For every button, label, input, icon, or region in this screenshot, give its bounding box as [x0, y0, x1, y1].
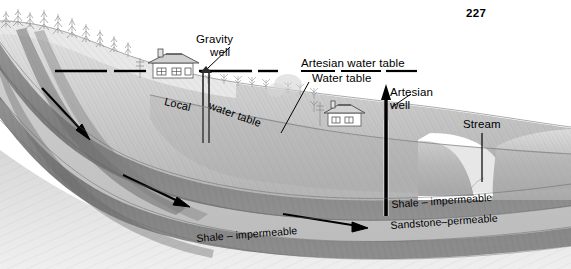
artesian-well-label: Artesian well [390, 86, 433, 112]
figure-container: 227 Gravity well Local water table Artes… [0, 0, 571, 269]
stream-label: Stream [463, 118, 501, 130]
artesian-well-label-line1: Artesian [390, 86, 433, 99]
gravity-well-label-line1: Gravity [196, 33, 233, 46]
page-number: 227 [466, 7, 486, 19]
gravity-well-label-line2: well [210, 46, 233, 59]
gravity-well-label: Gravity well [196, 33, 233, 59]
artesian-well-label-line2: well [390, 99, 433, 112]
artesian-water-table-label: Artesian water table [301, 57, 405, 69]
water-table-label: Water table [312, 72, 371, 84]
